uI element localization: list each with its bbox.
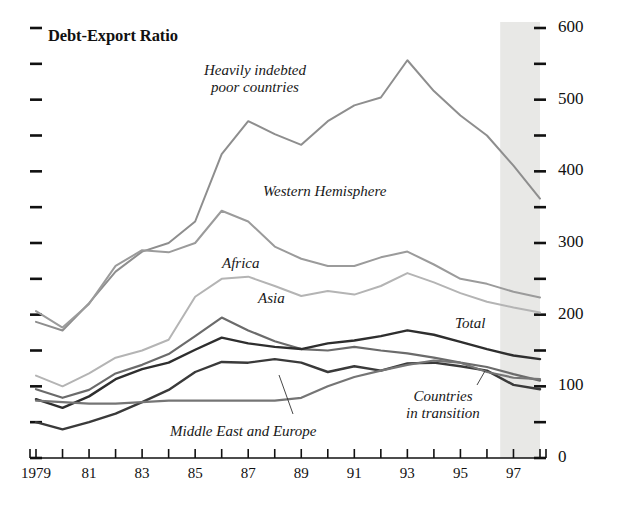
leader-line-countries-in-transition: [477, 371, 485, 385]
annotation-line: Western Hemisphere: [263, 183, 386, 200]
annotation-line: in transition: [353, 405, 533, 422]
x-tick-label: 1979: [6, 465, 66, 482]
x-tick-label: 93: [377, 465, 437, 482]
y-tick-label: 100: [558, 375, 584, 395]
y-tick-label: 400: [558, 160, 584, 180]
annotation-line: Countries: [353, 388, 533, 405]
x-tick-label: 81: [59, 465, 119, 482]
chart-series-lines: [36, 60, 540, 429]
chart-title: Debt-Export Ratio: [48, 26, 178, 46]
y-tick-label: 600: [558, 17, 584, 37]
x-tick-label: 97: [483, 465, 543, 482]
annotation-line: Middle East and Europe: [170, 423, 317, 440]
annotation-total: Total: [455, 315, 485, 332]
annotation-hipc: Heavily indebtedpoor countries: [165, 62, 345, 96]
annotation-asia: Asia: [258, 290, 285, 307]
chart-figure: Debt-Export Ratio 0100200300400500600 19…: [0, 0, 627, 516]
x-tick-label: 85: [165, 465, 225, 482]
y-tick-label: 200: [558, 304, 584, 324]
series-line-western-hemisphere: [36, 211, 540, 328]
leader-line-middle-east-and-europe: [279, 375, 293, 414]
annotation-line: Africa: [222, 255, 260, 272]
x-tick-label: 91: [324, 465, 384, 482]
annotation-countries-in-transition: Countriesin transition: [353, 388, 533, 422]
annotation-africa: Africa: [222, 255, 260, 272]
annotation-line: Heavily indebted: [165, 62, 345, 79]
x-tick-label: 95: [430, 465, 490, 482]
x-tick-label: 83: [112, 465, 172, 482]
y-tick-label: 300: [558, 232, 584, 252]
annotation-middle-east-and-europe: Middle East and Europe: [170, 423, 317, 440]
annotation-line: Total: [455, 315, 485, 332]
x-tick-label: 87: [218, 465, 278, 482]
y-tick-label: 0: [558, 447, 567, 467]
annotation-line: Asia: [258, 290, 285, 307]
x-tick-label: 89: [271, 465, 331, 482]
annotation-line: poor countries: [165, 79, 345, 96]
y-tick-label: 500: [558, 89, 584, 109]
annotation-western-hemisphere: Western Hemisphere: [263, 183, 386, 200]
